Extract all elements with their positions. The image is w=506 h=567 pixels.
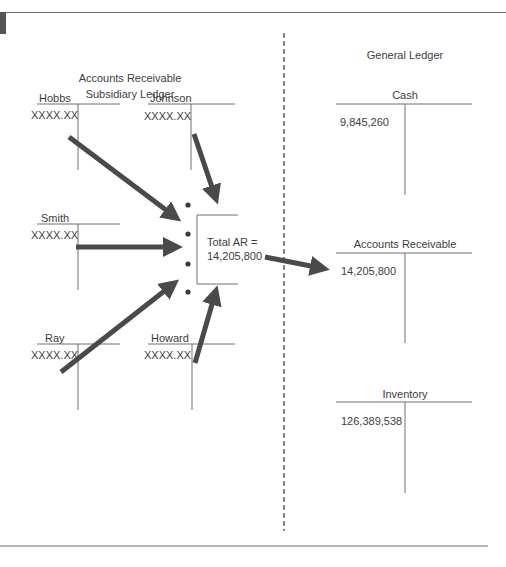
- t-account-inventory-name: Inventory: [350, 388, 460, 401]
- t-account-howard-balance: XXXX.XX: [144, 349, 191, 362]
- t-account-cash-balance: 9,845,260: [340, 116, 389, 129]
- arrow-johnson-to-total: [194, 134, 215, 196]
- t-account-hobbs-balance: XXXX.XX: [31, 109, 78, 122]
- subsidiary-title-line1: Accounts Receivable: [60, 72, 200, 85]
- t-account-smith-balance: XXXX.XX: [31, 229, 78, 242]
- t-account-ar-balance: 14,205,800: [341, 265, 396, 278]
- t-account-cash-name: Cash: [350, 89, 460, 102]
- t-account-howard-name: Howard: [151, 332, 189, 345]
- continuation-dots: [185, 202, 190, 294]
- t-account-ray-balance: XXXX.XX: [31, 349, 78, 362]
- arrow-howard-to-total: [195, 294, 215, 363]
- arrow-hobbs-to-total: [69, 137, 174, 216]
- t-account-ar-name: Accounts Receivable: [340, 238, 470, 251]
- general-ledger-title: General Ledger: [340, 49, 470, 62]
- t-account-smith-name: Smith: [41, 212, 69, 225]
- t-account-inventory-balance: 126,389,538: [341, 415, 402, 428]
- total-ar-value: 14,205,800: [207, 250, 262, 263]
- t-account-ray-name: Ray: [45, 332, 65, 345]
- t-account-johnson-name: Johnson: [150, 92, 192, 105]
- t-account-hobbs-name: Hobbs: [39, 92, 71, 105]
- section-tab-block: [0, 12, 6, 34]
- total-ar-label: Total AR =: [207, 236, 257, 249]
- arrow-total-to-gl-ar: [265, 257, 321, 268]
- t-account-johnson-balance: XXXX.XX: [144, 110, 191, 123]
